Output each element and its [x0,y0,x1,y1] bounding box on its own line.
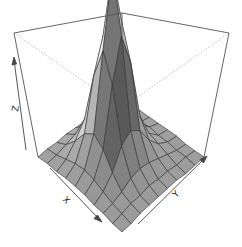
perspective-surface-plot: Z X Y [0,0,242,247]
z-axis-arrow [12,57,26,150]
z-axis-label: Z [10,105,21,113]
x-axis-label: X [61,194,72,205]
y-axis-label: Y [170,188,182,200]
